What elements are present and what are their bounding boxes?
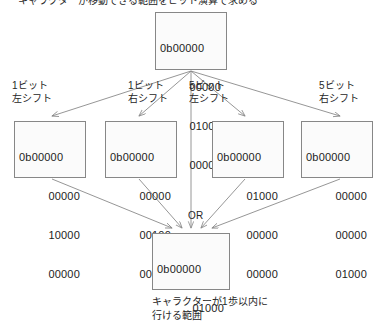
source-bitboard: 0b00000 00000 01000 00000 <box>155 12 227 70</box>
bit-row: 0b00000 <box>217 151 278 164</box>
shift-label-1bit-left: 1ビット左シフト <box>12 79 52 105</box>
shift-label-line2: 右シフト <box>319 93 359 104</box>
or-operator-label: OR <box>188 209 204 222</box>
shift-label-line1: 5ビット <box>189 80 225 91</box>
bit-row: 0b00000 <box>19 151 80 164</box>
shifted-bitboard-1bit-left: 0b00000 00000 10000 00000 <box>14 121 86 178</box>
shifted-bitboard-5bit-left: 0b00000 01000 00000 00000 <box>212 121 284 178</box>
result-bitboard: 0b00000 01000 11100 01000 <box>152 233 230 290</box>
bit-row: 0b00000 <box>306 151 367 164</box>
shift-label-1bit-right: 1ビット右シフト <box>128 79 168 105</box>
shift-label-line1: 1ビット <box>128 80 164 91</box>
bit-row: 00000 <box>19 268 80 281</box>
bit-row: 0b00000 <box>157 263 224 276</box>
shift-label-line2: 右シフト <box>128 93 168 104</box>
bit-row: 0b00000 <box>110 151 171 164</box>
bit-row: 00000 <box>306 190 367 203</box>
shifted-bitboard-5bit-right: 0b00000 00000 00000 01000 <box>301 121 373 178</box>
diagram-canvas: キャラクターが移動できる範囲をビット演算で求める 0b00000 00000 0… <box>0 0 380 335</box>
shift-label-line1: 5ビット <box>319 80 355 91</box>
shift-label-5bit-left: 5ビット左シフト <box>189 79 229 105</box>
bit-row: 00000 <box>110 190 171 203</box>
result-caption: キャラクターが1歩以内に行ける範囲 <box>152 295 268 323</box>
shift-label-line2: 左シフト <box>189 93 229 104</box>
diagram-title: キャラクターが移動できる範囲をビット演算で求める <box>18 0 258 7</box>
result-caption-line1: キャラクターが1歩以内に <box>152 296 268 307</box>
bit-row: 10000 <box>19 229 80 242</box>
shifted-bitboard-1bit-right: 0b00000 00000 00100 00000 <box>105 121 177 178</box>
bit-row: 00000 <box>306 229 367 242</box>
shift-label-line1: 1ビット <box>12 80 48 91</box>
bit-row: 01000 <box>217 190 278 203</box>
bit-row: 00000 <box>19 190 80 203</box>
result-caption-line2: 行ける範囲 <box>152 310 202 321</box>
bit-row: 0b00000 <box>160 42 221 55</box>
shift-label-5bit-right: 5ビット右シフト <box>319 79 359 105</box>
bit-row: 01000 <box>306 268 367 281</box>
shift-label-line2: 左シフト <box>12 93 52 104</box>
